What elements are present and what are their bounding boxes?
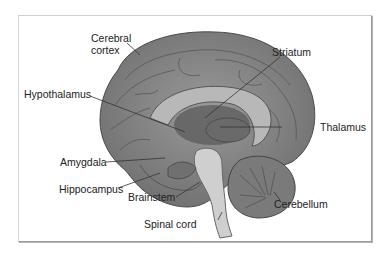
label-brainstem: Brainstem xyxy=(128,191,175,203)
label-hypothalamus: Hypothalamus xyxy=(24,88,91,100)
label-cerebral-cortex-line2: cortex xyxy=(91,44,120,56)
label-cerebellum: Cerebellum xyxy=(274,198,328,210)
label-spinal-cord: Spinal cord xyxy=(144,218,197,230)
label-amygdala: Amygdala xyxy=(60,156,107,168)
label-hippocampus: Hippocampus xyxy=(59,183,123,195)
label-striatum: Striatum xyxy=(272,46,311,58)
label-thalamus: Thalamus xyxy=(320,121,366,133)
label-cerebral-cortex-line1: Cerebral xyxy=(91,32,131,44)
thalamus-shape xyxy=(206,118,250,142)
